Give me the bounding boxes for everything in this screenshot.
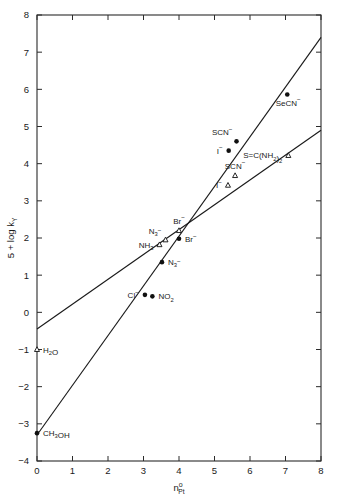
y-tick-label: 1 xyxy=(24,270,29,281)
data-point-label-SCN-: SCN− xyxy=(212,126,233,137)
x-tick-label: 7 xyxy=(283,465,288,476)
data-point-I- xyxy=(225,182,230,187)
data-point-NO2 xyxy=(150,294,155,299)
y-tick-label: 6 xyxy=(24,84,29,95)
y-tick-label: 4 xyxy=(24,158,29,169)
y-axis-title: 5 + log kY xyxy=(5,217,18,258)
data-point-S=C(NH2)2 xyxy=(286,153,291,158)
data-point-Cl- xyxy=(143,293,148,298)
data-point-label-N3-: N3− xyxy=(149,227,162,237)
data-point-label-Cl-: Cl− xyxy=(128,289,140,300)
y-tick-label: 5 xyxy=(24,121,29,132)
y-tick-label: −1 xyxy=(18,344,29,355)
data-point-Br- xyxy=(177,236,182,241)
data-point-H2O xyxy=(35,347,40,352)
data-point-SCN- xyxy=(234,139,239,144)
data-point-label-S=C(NH2)2: S=C(NH2)2 xyxy=(243,151,282,163)
data-point-label-Br-: Br− xyxy=(173,214,185,225)
data-point-label-NH3: NH3 xyxy=(139,241,154,251)
data-point-I- xyxy=(226,148,231,153)
y-tick-label: 3 xyxy=(24,195,29,206)
data-point-CH3OH xyxy=(35,431,40,436)
x-tick-label: 5 xyxy=(212,465,217,476)
y-tick-label: −2 xyxy=(18,381,29,392)
data-point-N3- xyxy=(160,260,165,265)
data-point-label-I-: I− xyxy=(216,179,222,190)
x-tick-label: 8 xyxy=(318,465,323,476)
x-axis-title: noPt xyxy=(174,481,185,495)
data-point-label-SeCN-: SeCN− xyxy=(276,96,301,107)
y-tick-label: −3 xyxy=(18,418,29,429)
data-point-label-SCN-: SCN− xyxy=(225,159,246,170)
data-point-label-CH3OH: CH3OH xyxy=(43,429,70,440)
x-tick-label: 3 xyxy=(141,465,146,476)
x-tick-label: 0 xyxy=(34,465,39,476)
figure-container: 012345678−4−3−2−1012345678CH3OHCl−NO2N3−… xyxy=(0,0,339,502)
data-point-SeCN- xyxy=(285,92,290,97)
data-point-label-NO2: NO2 xyxy=(158,292,173,302)
data-point-SCN- xyxy=(233,173,238,178)
y-tick-label: 7 xyxy=(24,47,29,58)
data-point-label-Br-: Br− xyxy=(185,233,197,244)
scatter-plot: 012345678−4−3−2−1012345678CH3OHCl−NO2N3−… xyxy=(0,0,339,502)
y-tick-label: 8 xyxy=(24,9,29,20)
x-tick-label: 4 xyxy=(176,465,181,476)
fit-line-steep-fit xyxy=(37,37,321,435)
y-tick-label: 2 xyxy=(24,232,29,243)
y-tick-label: −4 xyxy=(18,455,29,466)
data-point-label-I-: I− xyxy=(217,144,223,155)
x-tick-label: 2 xyxy=(105,465,110,476)
x-tick-label: 6 xyxy=(247,465,252,476)
data-point-label-H2O: H2O xyxy=(43,346,58,357)
x-tick-label: 1 xyxy=(70,465,75,476)
y-tick-label: 0 xyxy=(24,307,29,318)
data-point-label-N3-: N3− xyxy=(168,258,181,268)
